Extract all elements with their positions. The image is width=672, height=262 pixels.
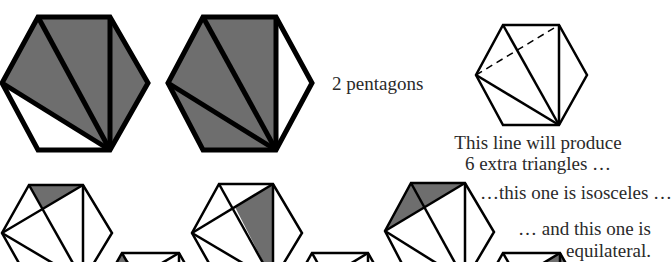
hexagon-3 [476, 25, 587, 125]
produce-label-line2: 6 extra triangles … [428, 153, 648, 174]
produce-label-line1: This line will produce [428, 132, 648, 153]
hexagon-2 [168, 17, 312, 150]
equilateral-label-line1: … and this one is [460, 218, 651, 239]
isosceles-label: …this one is isosceles … [480, 182, 672, 203]
hexagon-4 [2, 185, 112, 262]
hexagon-1 [2, 17, 148, 150]
hexagon-5 [192, 184, 302, 262]
hexagon-small-b [291, 253, 389, 262]
pentagons-label: 2 pentagons [332, 73, 423, 94]
hexagon-small-a [101, 253, 200, 262]
equilateral-label-line2: equilateral. [460, 240, 651, 261]
